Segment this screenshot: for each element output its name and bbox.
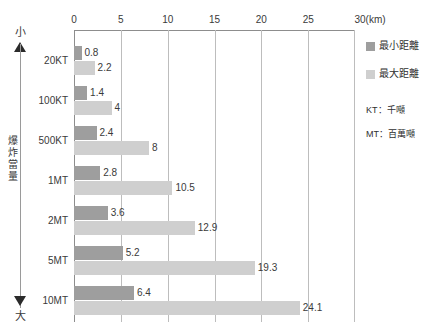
bar-min-5mt (74, 246, 123, 260)
bar-max-10mt (74, 301, 300, 315)
y-axis-title: 爆 炸 當 量 (6, 132, 20, 186)
bar-value-min-20kt: 0.8 (82, 46, 99, 60)
x-tick-0: 0 (71, 14, 77, 25)
bar-value-max-20kt: 2.2 (95, 61, 112, 75)
y-axis-title-char-4: 量 (6, 171, 20, 183)
bar-max-500kt (74, 141, 149, 155)
bar-value-min-2mt: 3.6 (108, 206, 125, 220)
category-label-2mt: 2MT (48, 215, 68, 227)
note-mt: MT：百萬噸 (366, 128, 432, 140)
y-axis-title-char-1: 爆 (6, 135, 20, 147)
x-tick-5: 5 (118, 14, 124, 25)
bar-max-2mt (74, 221, 195, 235)
bar-max-5mt (74, 261, 255, 275)
bar-value-min-10mt: 6.4 (134, 286, 151, 300)
bar-value-max-100kt: 4 (112, 101, 121, 115)
legend-swatch-icon-min (366, 42, 375, 51)
bar-value-max-5mt: 19.3 (255, 261, 277, 275)
bar-value-max-1mt: 10.5 (172, 181, 194, 195)
bar-value-max-2mt: 12.9 (195, 221, 217, 235)
bar-value-min-5mt: 5.2 (123, 246, 140, 260)
bar-min-2mt (74, 206, 108, 220)
category-label-5mt: 5MT (48, 255, 68, 267)
bar-min-100kt (74, 86, 87, 100)
bar-min-1mt (74, 166, 100, 180)
legend: 最小距離 最大距離 (366, 40, 432, 96)
y-axis-bottom-label: 大 (0, 310, 40, 322)
x-tick-25: 25 (303, 14, 314, 25)
bar-value-max-10mt: 24.1 (300, 301, 322, 315)
x-tick-30-with-unit: 30(km) (354, 14, 385, 25)
x-tick-20: 20 (256, 14, 267, 25)
bar-min-20kt (74, 46, 82, 60)
y-axis-group: 小 爆 炸 當 量 大 (0, 24, 40, 328)
chart-figure: 0 5 10 15 20 25 30(km) 0.8 2.2 1.4 4 (0, 0, 432, 332)
legend-swatch-icon-max (366, 70, 375, 79)
y-axis-title-char-3: 當 (6, 159, 20, 171)
bar-min-10mt (74, 286, 134, 300)
y-axis-title-char-2: 炸 (6, 147, 20, 159)
legend-item-max-distance: 最大距離 (366, 68, 432, 80)
legend-label-max: 最大距離 (379, 68, 419, 80)
x-tick-15: 15 (209, 14, 220, 25)
note-kt: KT：千噸 (366, 104, 432, 116)
bar-max-20kt (74, 61, 95, 75)
bar-min-500kt (74, 126, 97, 140)
category-label-20kt: 20KT (44, 55, 68, 67)
category-label-10mt: 10MT (42, 295, 68, 307)
bars-layer: 0.8 2.2 1.4 4 2.4 8 2.8 10.5 3.6 12.9 (74, 30, 355, 322)
bar-value-max-500kt: 8 (149, 141, 158, 155)
x-tick-10: 10 (162, 14, 173, 25)
arrow-down-icon (14, 296, 26, 306)
bar-max-100kt (74, 101, 112, 115)
category-label-500kt: 500KT (39, 135, 68, 147)
category-label-100kt: 100KT (39, 95, 68, 107)
bar-value-min-1mt: 2.8 (100, 166, 117, 180)
category-label-1mt: 1MT (48, 175, 68, 187)
y-axis-top-label: 小 (0, 26, 40, 38)
bar-value-min-500kt: 2.4 (97, 126, 114, 140)
x-axis-tick-labels: 0 5 10 15 20 25 30(km) (0, 14, 432, 28)
bar-value-min-100kt: 1.4 (87, 86, 104, 100)
unit-notes: KT：千噸 MT：百萬噸 (366, 104, 432, 152)
legend-item-min-distance: 最小距離 (366, 40, 432, 52)
legend-label-min: 最小距離 (379, 40, 419, 52)
bar-max-1mt (74, 181, 172, 195)
